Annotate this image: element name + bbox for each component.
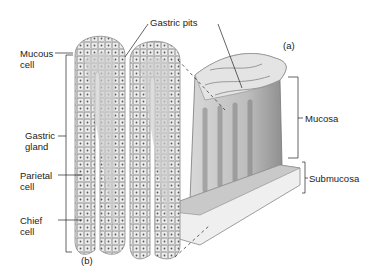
label-chief-cell: Chief cell bbox=[20, 215, 42, 237]
label-gastric-gland: Gastric gland bbox=[25, 130, 55, 152]
stomach-wall-illustration bbox=[0, 0, 377, 275]
label-mucous-cell: Mucous cell bbox=[20, 48, 53, 70]
label-parietal-cell: Parietal cell bbox=[20, 170, 52, 192]
label-gastric-pits: Gastric pits bbox=[150, 17, 198, 28]
label-mucosa: Mucosa bbox=[305, 113, 338, 124]
gastric-gland-detail bbox=[75, 36, 180, 259]
label-panel-a: (a) bbox=[283, 40, 295, 51]
label-panel-b: (b) bbox=[81, 255, 93, 266]
label-submucosa: Submucosa bbox=[309, 173, 359, 184]
